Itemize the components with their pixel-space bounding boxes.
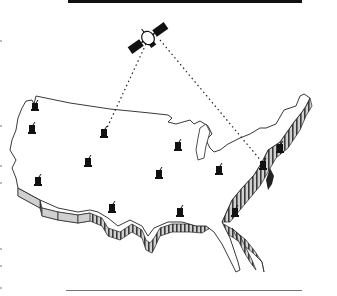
satellite-network-illustration	[0, 0, 337, 296]
satellite-icon	[124, 16, 172, 58]
edge-marks	[0, 40, 2, 289]
us-map-outline	[10, 94, 310, 272]
